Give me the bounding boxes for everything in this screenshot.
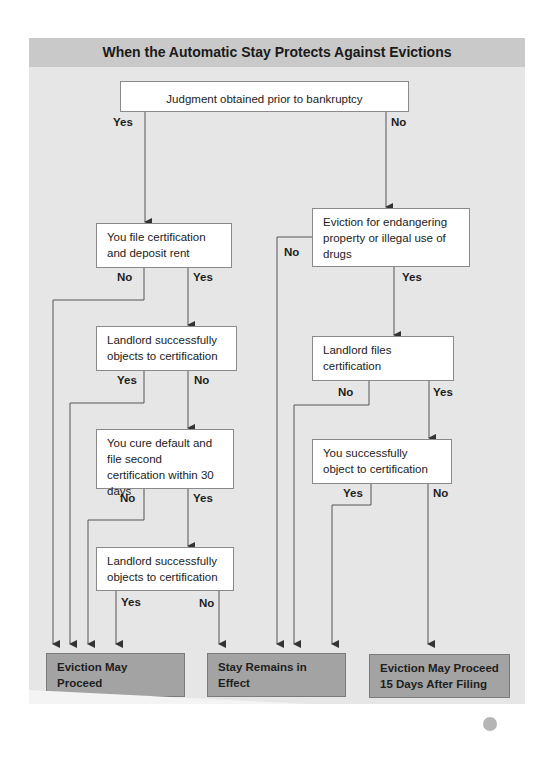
label-judgment-yes: Yes — [113, 116, 133, 128]
label-endangering-yes: Yes — [402, 271, 422, 283]
label-cure-default-yes: Yes — [193, 492, 213, 504]
node-judgment-prior-to-bankruptcy: Judgment obtained prior to bankruptcy — [120, 81, 409, 112]
page-marker-dot — [483, 717, 497, 731]
node-file-certification: You file certification and deposit rent — [96, 223, 232, 268]
node-cure-default: You cure default and file second certifi… — [96, 429, 234, 489]
label-endangering-no: No — [284, 246, 299, 258]
node-landlord-objects-1: Landlord successfully objects to certifi… — [96, 326, 237, 371]
label-landlord-objects-1-no: No — [194, 374, 209, 386]
panel-bottom-edge — [29, 690, 525, 704]
node-endangering-property: Eviction for endangering property or ill… — [312, 208, 470, 267]
label-you-object-yes: Yes — [343, 487, 363, 499]
label-judgment-no: No — [391, 116, 406, 128]
label-file-cert-no: No — [117, 271, 132, 283]
node-label: Eviction for endangering property or ill… — [323, 216, 447, 260]
node-label: You cure default and file second certifi… — [107, 437, 214, 497]
outcome-label-line1: Eviction May Proceed — [380, 660, 499, 676]
node-label: Judgment obtained prior to bankruptcy — [166, 93, 362, 105]
label-landlord-objects-2-yes: Yes — [121, 596, 141, 608]
node-label: Landlord successfully objects to certifi… — [107, 555, 218, 583]
label-you-object-no: No — [433, 487, 448, 499]
outcome-label: Eviction May Proceed — [57, 659, 174, 691]
label-file-cert-yes: Yes — [193, 271, 213, 283]
label-cure-default-no: No — [120, 492, 135, 504]
node-landlord-files-certification: Landlord files certification — [312, 336, 454, 381]
node-label: Landlord successfully objects to certifi… — [107, 334, 218, 362]
node-landlord-objects-2: Landlord successfully objects to certifi… — [96, 547, 234, 591]
node-label: Landlord files certification — [323, 344, 391, 372]
node-you-object: You successfully object to certification — [312, 439, 452, 484]
outcome-label: Stay Remains in Effect — [218, 659, 335, 691]
label-landlord-objects-2-no: No — [199, 597, 214, 609]
node-label: You file certification and deposit rent — [107, 231, 206, 259]
node-label: You successfully object to certification — [323, 447, 428, 475]
label-landlord-objects-1-yes: Yes — [117, 374, 137, 386]
label-landlord-files-yes: Yes — [433, 386, 453, 398]
label-landlord-files-no: No — [338, 386, 353, 398]
